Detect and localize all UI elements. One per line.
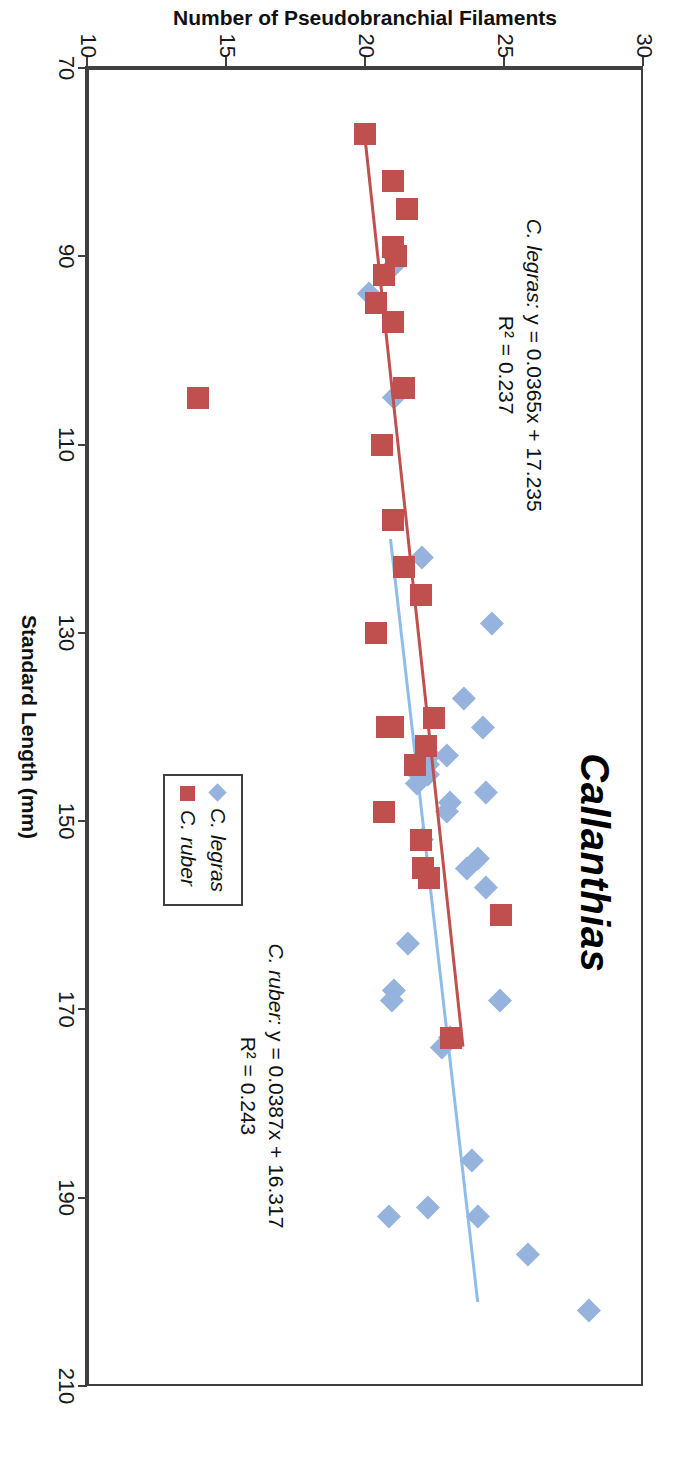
- y-tick: [225, 57, 227, 66]
- x-tick: [78, 1197, 87, 1199]
- chart-screenshot: 1015202530 7090110130150170190210 Number…: [0, 0, 675, 1468]
- data-point-c-ruber: [404, 754, 426, 776]
- data-point-c-ruber: [393, 377, 415, 399]
- x-tick: [78, 67, 87, 69]
- data-point-c-ruber: [373, 264, 395, 286]
- annotation-equation-legras: y = 0.0365x + 17.235: [523, 314, 546, 511]
- annotation-r2-legras: R² = 0.237: [492, 219, 520, 512]
- x-tick: [78, 1385, 87, 1387]
- data-point-c-ruber: [354, 123, 376, 145]
- data-point-c-ruber: [424, 707, 446, 729]
- y-tick: [86, 57, 88, 66]
- x-axis-line: [85, 68, 88, 1386]
- annotation-species-ruber: C. ruber:: [265, 944, 288, 1026]
- data-point-c-ruber: [382, 170, 404, 192]
- data-point-c-ruber: [382, 311, 404, 333]
- y-axis-title: Number of Pseudobranchial Filaments: [173, 6, 557, 30]
- legend-square-icon: [180, 786, 195, 801]
- data-point-c-ruber: [396, 198, 418, 220]
- data-point-c-ruber: [410, 584, 432, 606]
- y-tick: [642, 57, 644, 66]
- data-point-c-ruber: [382, 716, 404, 738]
- chart-legend[interactable]: C. legras C. ruber: [163, 774, 243, 906]
- x-tick: [78, 1008, 87, 1010]
- x-tick: [78, 632, 87, 634]
- x-tick-label: 150: [53, 791, 79, 851]
- y-axis-line: [85, 66, 643, 69]
- annotation-c-legras: C. legras: y = 0.0365x + 17.235 R² = 0.2…: [492, 219, 549, 512]
- data-point-c-ruber: [418, 867, 440, 889]
- y-tick: [364, 57, 366, 66]
- data-point-c-ruber: [410, 829, 432, 851]
- annotation-equation-ruber: y = 0.0387x + 16.317: [265, 1031, 288, 1228]
- x-tick-label: 130: [53, 603, 79, 663]
- data-point-c-ruber: [365, 622, 387, 644]
- x-tick-label: 190: [53, 1168, 79, 1228]
- legend-label-c-ruber: C. ruber: [176, 810, 200, 886]
- data-point-c-ruber: [382, 509, 404, 531]
- legend-item-c-legras[interactable]: C. legras: [203, 786, 233, 892]
- x-tick: [78, 820, 87, 822]
- x-tick-label: 70: [53, 38, 79, 98]
- annotation-species-legras: C. legras:: [523, 219, 546, 309]
- annotation-c-ruber: C. ruber: y = 0.0387x + 16.317 R² = 0.24…: [233, 944, 290, 1229]
- x-tick-label: 90: [53, 226, 79, 286]
- x-tick: [78, 255, 87, 257]
- data-point-c-ruber: [440, 1027, 462, 1049]
- legend-diamond-icon: [208, 783, 226, 801]
- data-point-c-ruber: [187, 387, 209, 409]
- annotation-r2-ruber: R² = 0.243: [233, 944, 261, 1229]
- legend-item-c-ruber[interactable]: C. ruber: [173, 786, 203, 892]
- data-point-c-ruber: [373, 801, 395, 823]
- data-point-c-ruber: [490, 904, 512, 926]
- chart-title: Callanthias: [572, 753, 617, 972]
- scatter-chart-figure: 1015202530 7090110130150170190210 Number…: [0, 0, 675, 1468]
- y-tick-label: 30: [631, 14, 657, 58]
- y-tick: [503, 57, 505, 66]
- x-axis-title: Standard Length (mm): [17, 577, 41, 877]
- x-tick: [78, 444, 87, 446]
- data-point-c-ruber: [371, 434, 393, 456]
- x-tick-label: 210: [53, 1356, 79, 1416]
- data-point-c-ruber: [393, 556, 415, 578]
- legend-label-c-legras: C. legras: [206, 808, 230, 892]
- x-tick-label: 170: [53, 979, 79, 1039]
- plot-area: [87, 68, 643, 1386]
- x-tick-label: 110: [53, 415, 79, 475]
